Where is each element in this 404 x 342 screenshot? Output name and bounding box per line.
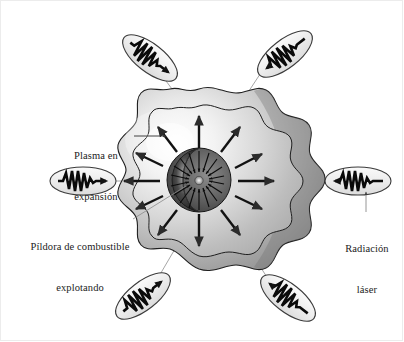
core-hotspot — [195, 176, 203, 184]
fuel-pellet-core — [167, 148, 231, 212]
plasma-label-line2: expansión — [60, 190, 132, 204]
laser-label-line1: Radiación — [336, 242, 398, 256]
figure-canvas: Plasma en expansión Píldora de combustib… — [0, 0, 404, 342]
beam-capsule-top-right[interactable] — [250, 23, 319, 86]
plasma-label-line1: Plasma en — [60, 149, 132, 163]
beam-capsule-bottom-right[interactable] — [253, 267, 322, 330]
laser-label: Radiación láser — [336, 215, 398, 323]
laser-beam-right[interactable] — [325, 167, 391, 195]
pellet-label-line2: explotando — [18, 281, 142, 295]
laser-beam-top-right[interactable] — [250, 23, 319, 86]
pellet-label: Píldora de combustible explotando — [18, 213, 142, 321]
pellet-label-line1: Píldora de combustible — [18, 240, 142, 254]
laser-beam-top-left[interactable] — [115, 27, 184, 90]
laser-beam-bottom-right[interactable] — [253, 267, 322, 330]
laser-label-line2: láser — [336, 283, 398, 297]
